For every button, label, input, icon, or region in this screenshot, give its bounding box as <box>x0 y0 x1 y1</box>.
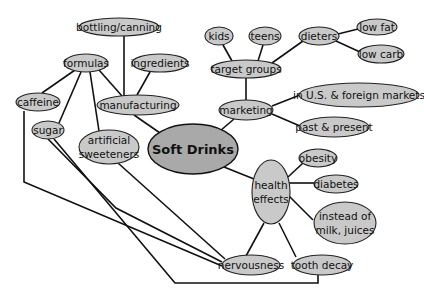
node-label: in U.S. & foreign markets <box>293 89 424 101</box>
node-label: caffeine <box>17 96 59 108</box>
edge-center-health <box>224 167 254 179</box>
node-label: marketing <box>219 104 273 116</box>
node-label: kids <box>208 30 229 42</box>
node-label: formulas <box>63 57 109 69</box>
node-label-line2: sweeteners <box>79 148 139 160</box>
node-label: past & present <box>295 121 372 133</box>
node-soft-drinks: Soft Drinks <box>148 124 238 174</box>
node-label: manufacturing <box>99 99 176 111</box>
node-diabetes: diabetes <box>313 175 358 193</box>
node-tooth-decay: tooth decay <box>291 255 354 275</box>
edge-center-manufacturing <box>134 115 160 133</box>
node-markets: in U.S. & foreign markets <box>293 83 424 107</box>
node-label: obesity <box>299 152 337 164</box>
node-manufacturing: manufacturing <box>97 95 179 115</box>
node-obesity: obesity <box>299 149 337 167</box>
node-low-carb: low carb <box>358 45 404 63</box>
node-caffeine: caffeine <box>16 93 60 111</box>
node-past-present: past & present <box>295 117 372 137</box>
node-kids: kids <box>205 27 233 45</box>
node-label-line1: instead of <box>319 210 371 222</box>
edge-manufacturing-formulas <box>99 70 122 96</box>
node-label: low fat <box>359 21 395 33</box>
node-label: nervousness <box>218 259 284 271</box>
node-label: bottling/canning <box>76 21 162 33</box>
node-label-line1: health <box>254 179 287 191</box>
node-dieters: dieters <box>299 27 339 45</box>
node-label: teens <box>250 30 279 42</box>
concept-map-canvas: bottling/canning formulas ingredients ca… <box>0 0 424 300</box>
node-target-groups: target groups <box>210 60 281 78</box>
node-label: target groups <box>210 63 281 75</box>
edge-health-obesity <box>288 163 303 177</box>
edge-formulas-artificial <box>90 72 99 131</box>
node-low-fat: low fat <box>357 19 397 35</box>
edge-health-nervousness <box>246 223 264 256</box>
node-label-line2: effects <box>253 193 289 205</box>
node-label: ingredients <box>130 57 189 69</box>
node-health-effects: health effects <box>252 160 290 224</box>
node-instead-of-milk: instead of milk, juices <box>314 202 376 244</box>
edge-dieters-lowfat <box>338 29 358 34</box>
node-label-line2: milk, juices <box>315 224 374 236</box>
node-nervousness: nervousness <box>218 255 284 275</box>
node-label-line1: artificial <box>88 134 130 146</box>
edge-manufacturing-ingredients <box>137 72 150 95</box>
edge-health-instead <box>288 195 313 220</box>
node-label: low carb <box>359 48 404 60</box>
node-label: dieters <box>301 30 337 42</box>
node-teens: teens <box>249 27 281 45</box>
node-sugar: sugar <box>32 121 64 139</box>
node-artificial-sweeteners: artificial sweeteners <box>79 130 139 164</box>
node-label: diabetes <box>313 178 358 190</box>
node-formulas: formulas <box>63 54 109 72</box>
edge-formulas-caffeine <box>42 70 75 93</box>
edge-target-teens <box>258 45 263 61</box>
node-label: sugar <box>33 124 63 136</box>
concept-map: bottling/canning formulas ingredients ca… <box>0 0 424 300</box>
node-marketing: marketing <box>219 100 273 120</box>
node-bottling-canning: bottling/canning <box>76 18 162 36</box>
edge-dieters-lowcarb <box>336 41 360 52</box>
node-label: tooth decay <box>291 259 354 271</box>
edge-target-kids <box>223 45 232 61</box>
edge-target-dieters <box>272 41 303 63</box>
edge-health-tooth <box>279 223 296 257</box>
node-ingredients: ingredients <box>130 54 189 72</box>
node-label: Soft Drinks <box>152 142 234 157</box>
